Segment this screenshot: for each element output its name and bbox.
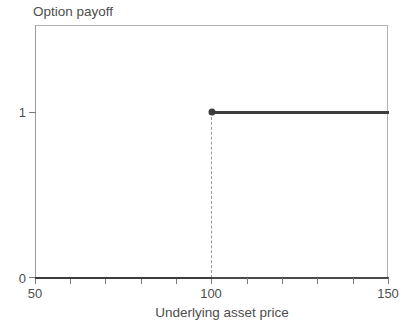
strike-guide-line (211, 112, 212, 278)
payoff-segment-below-strike (35, 277, 212, 280)
x-tick-110 (247, 278, 248, 284)
y-axis-line (35, 25, 36, 278)
strike-payoff-marker (208, 109, 215, 116)
x-axis-title: Underlying asset price (155, 305, 289, 320)
x-tick-140 (353, 278, 354, 284)
page-title: Option payoff (33, 4, 113, 20)
payoff-segment-above-strike (211, 111, 389, 114)
y-tick-label-0: 0 (19, 271, 26, 286)
x-tick-150 (388, 278, 389, 284)
x-tick-130 (317, 278, 318, 284)
x-tick-120 (282, 278, 283, 284)
x-tick-label-50: 50 (28, 286, 42, 301)
y-tick-1 (29, 112, 36, 113)
option-payoff-chart: Option payoff 50 100 150 1 0 Underlying … (0, 0, 418, 336)
y-tick-label-1: 1 (19, 105, 26, 120)
x-tick-label-150: 150 (377, 286, 399, 301)
x-axis-title-wrap: Underlying asset price (0, 305, 418, 321)
x-tick-label-100: 100 (200, 286, 222, 301)
